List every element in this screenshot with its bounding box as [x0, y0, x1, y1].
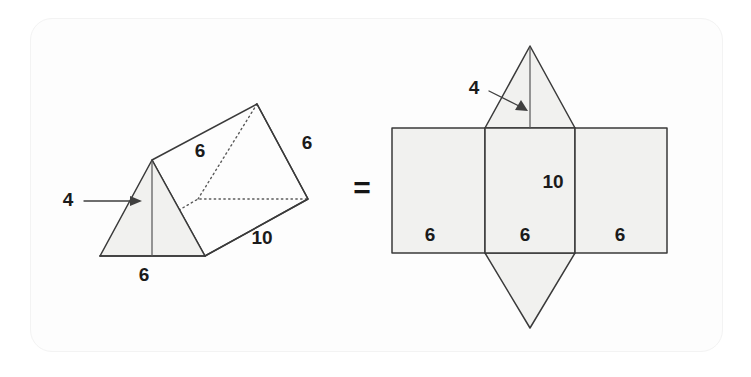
label-net-right-6: 6	[615, 224, 626, 245]
label-prism-height-4: 4	[63, 189, 74, 210]
label-net-mid-6: 6	[520, 224, 531, 245]
label-prism-slant-6: 6	[195, 140, 206, 161]
label-prism-length-10: 10	[251, 227, 272, 248]
net-left-rectangle	[392, 128, 485, 253]
equals-sign: =	[353, 171, 371, 204]
diagram-stage: 4 6 6 10 6 = 4 10 6 6	[0, 0, 751, 377]
prism-net: 4 10 6 6 6	[392, 46, 667, 328]
label-net-height-4: 4	[469, 77, 480, 98]
label-prism-base-6: 6	[139, 264, 150, 285]
label-prism-right-6: 6	[302, 132, 313, 153]
hidden-edge-back-vertical	[198, 104, 257, 199]
net-bottom-triangle	[485, 253, 575, 328]
label-net-left-6: 6	[425, 224, 436, 245]
label-net-side-10: 10	[542, 171, 563, 192]
prism-net-figure: 4 6 6 10 6 = 4 10 6 6	[0, 0, 751, 377]
triangular-prism-solid: 4 6 6 10 6	[63, 104, 313, 285]
